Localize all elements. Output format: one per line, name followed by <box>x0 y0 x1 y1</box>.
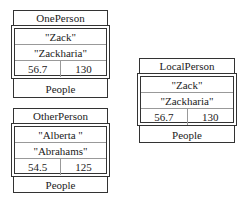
field-value-2: 130 <box>187 109 234 125</box>
field-value-1: 54.5 <box>15 159 60 175</box>
object-name: OnePerson <box>11 11 110 25</box>
field-value-1: 56.7 <box>15 61 60 77</box>
field-first-name: "Zack" <box>141 77 233 93</box>
field-last-name: "Zackharia" <box>141 93 233 109</box>
object-type: People <box>11 178 110 192</box>
field-numbers: 56.7 130 <box>15 61 106 77</box>
object-localperson: LocalPerson "Zack" "Zackharia" 56.7 130 … <box>137 58 237 143</box>
field-first-name: "Alberta " <box>15 127 106 143</box>
field-value-2: 130 <box>60 61 106 77</box>
field-value-2: 125 <box>60 159 106 175</box>
object-name: LocalPerson <box>137 59 237 73</box>
object-type: People <box>11 82 110 96</box>
object-data-frame: "Zack" "Zackharia" 56.7 130 <box>137 73 237 126</box>
object-data-inner: "Zack" "Zackharia" 56.7 130 <box>140 76 234 123</box>
object-name: OtherPerson <box>11 109 110 123</box>
field-numbers: 56.7 130 <box>141 109 233 125</box>
object-otherperson: OtherPerson "Alberta " "Abrahams" 54.5 1… <box>11 108 110 193</box>
field-last-name: "Abrahams" <box>15 143 106 159</box>
field-value-1: 56.7 <box>141 109 187 125</box>
object-data-inner: "Alberta " "Abrahams" 54.5 125 <box>14 126 107 174</box>
object-data-inner: "Zack" "Zackharia" 56.7 130 <box>14 28 107 76</box>
object-data-frame: "Zack" "Zackharia" 56.7 130 <box>11 25 110 79</box>
object-oneperson: OnePerson "Zack" "Zackharia" 56.7 130 Pe… <box>11 10 110 98</box>
object-data-frame: "Alberta " "Abrahams" 54.5 125 <box>11 123 110 177</box>
object-type: People <box>137 128 237 142</box>
field-numbers: 54.5 125 <box>15 159 106 175</box>
field-first-name: "Zack" <box>15 29 106 45</box>
field-last-name: "Zackharia" <box>15 45 106 61</box>
